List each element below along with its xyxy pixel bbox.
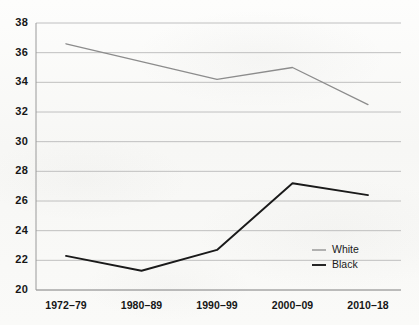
y-tick-label: 32 bbox=[2, 105, 28, 117]
y-tick-label: 20 bbox=[2, 283, 28, 295]
series-line-black bbox=[66, 183, 368, 271]
chart-canvas bbox=[0, 0, 419, 325]
series-lines bbox=[66, 44, 368, 271]
y-tick-label: 38 bbox=[2, 16, 28, 28]
y-tick-label: 36 bbox=[2, 46, 28, 58]
x-tick-label: 2000–09 bbox=[258, 299, 328, 311]
line-chart: 38363432302826242220 1972–791980–891990–… bbox=[0, 0, 419, 325]
x-tick-label: 1980–89 bbox=[107, 299, 177, 311]
x-tick-label: 1972–79 bbox=[31, 299, 101, 311]
y-tick-label: 34 bbox=[2, 75, 28, 87]
y-tick-label: 30 bbox=[2, 135, 28, 147]
y-tick-label: 26 bbox=[2, 194, 28, 206]
y-tick-label: 22 bbox=[2, 253, 28, 265]
legend-label-white: White bbox=[332, 243, 359, 255]
legend-label-black: Black bbox=[332, 258, 358, 270]
x-tick-label: 2010–18 bbox=[333, 299, 403, 311]
y-tick-label: 24 bbox=[2, 224, 28, 236]
x-tick-label: 1990–99 bbox=[182, 299, 252, 311]
y-tick-label: 28 bbox=[2, 164, 28, 176]
legend-swatches bbox=[312, 250, 326, 265]
